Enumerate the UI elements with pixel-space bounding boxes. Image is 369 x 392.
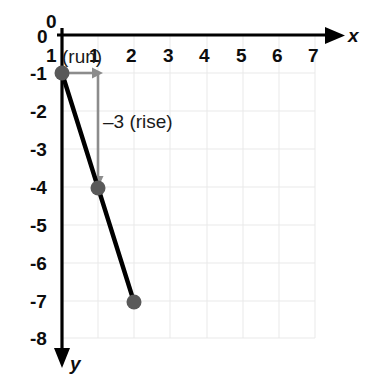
data-point [127, 295, 142, 310]
y-tick-label-0: 0 [37, 27, 48, 46]
y-tick-label-minus3: -3 [30, 140, 47, 159]
data-point [91, 181, 106, 196]
x-axis-label: x [348, 26, 359, 45]
y-tick-label-minus5: -5 [30, 216, 47, 235]
y-tick-label-minus6: -6 [30, 254, 47, 273]
y-tick-label-minus8: -8 [30, 329, 47, 348]
x-tick-label-2: 2 [126, 46, 137, 65]
x-tick-label-4: 4 [199, 46, 210, 65]
y-tick-label-minus7: -7 [30, 292, 47, 311]
x-tick-label-0-top: 0 [46, 12, 57, 31]
x-tick-label-7: 7 [308, 46, 319, 65]
x-tick-label-3: 3 [163, 46, 174, 65]
y-tick-label-minus4: -4 [30, 178, 47, 197]
y-tick-label-minus2: -2 [30, 102, 47, 121]
x-tick-label-5: 5 [236, 46, 247, 65]
data-point [55, 66, 70, 81]
graph-figure: 0 1 2 3 4 5 6 7 0 -1 -2 -3 -4 -5 -6 -7 -… [0, 0, 369, 392]
y-axis-upper-one-label: 1 [46, 46, 57, 65]
y-tick-label-minus1: -1 [30, 64, 47, 83]
run-annotation-label: (run) [62, 47, 102, 66]
x-tick-label-6: 6 [272, 46, 283, 65]
y-axis-label: y [70, 354, 81, 373]
x-axis [57, 27, 345, 44]
rise-annotation-label: –3 (rise) [103, 112, 173, 131]
